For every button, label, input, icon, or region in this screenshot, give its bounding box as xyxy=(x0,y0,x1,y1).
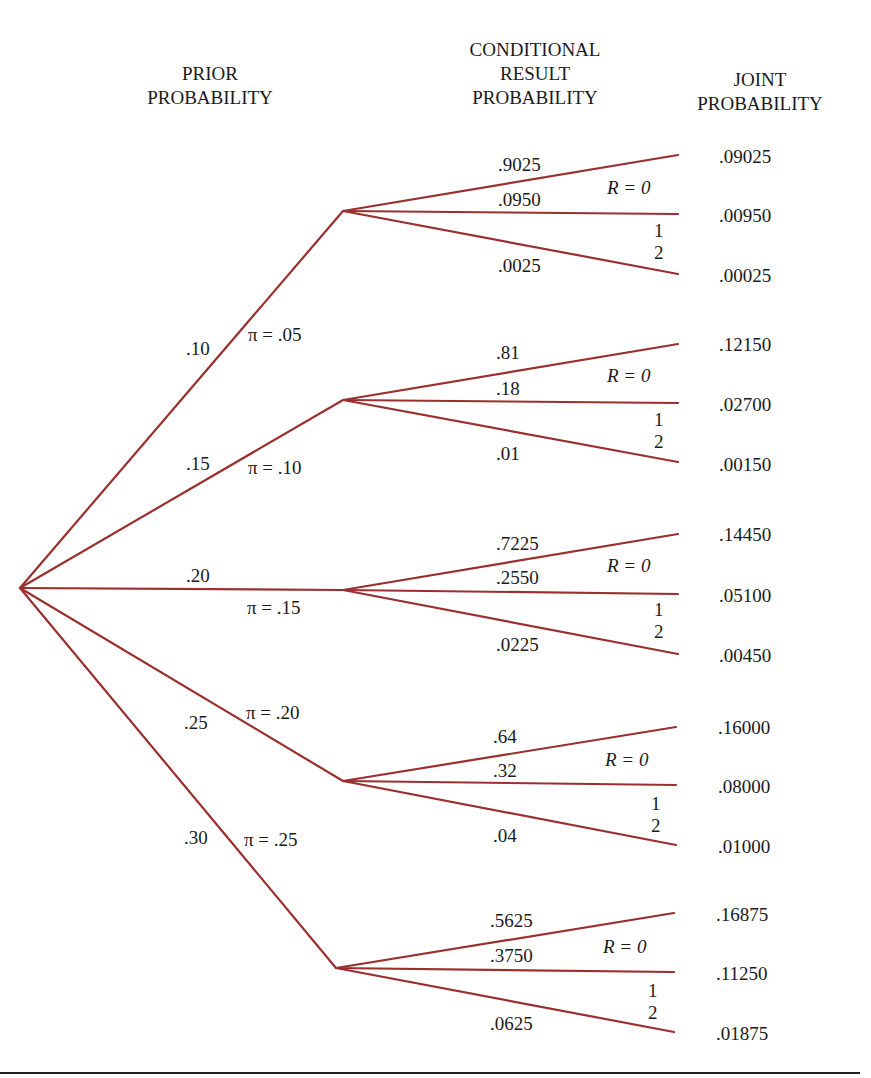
pi-label-4: π = .20 xyxy=(246,702,300,724)
prior-prob-3: .20 xyxy=(186,565,210,587)
joint-prob: .00950 xyxy=(719,205,771,227)
conditional-prob: .2550 xyxy=(496,567,539,589)
joint-prob: .02700 xyxy=(719,394,771,416)
joint-prob: .12150 xyxy=(719,334,771,356)
branch-prior-2 xyxy=(20,400,343,588)
result-label-r2: 2 xyxy=(648,1002,658,1024)
conditional-prob: .01 xyxy=(496,443,520,465)
conditional-prob: .32 xyxy=(493,760,517,782)
conditional-prob: .64 xyxy=(493,726,517,748)
result-label-r1: 1 xyxy=(651,793,661,815)
joint-prob: .09025 xyxy=(719,146,771,168)
joint-prob: .01000 xyxy=(718,836,770,858)
pi-label-1: π = .05 xyxy=(248,324,302,346)
conditional-prob: .0225 xyxy=(496,634,539,656)
result-label-r1: 1 xyxy=(654,409,664,431)
result-label-r1: 1 xyxy=(648,980,658,1002)
pi-label-2: π = .10 xyxy=(248,457,302,479)
joint-prob: .14450 xyxy=(719,524,771,546)
conditional-prob: .0025 xyxy=(498,255,541,277)
joint-prob: .00450 xyxy=(719,645,771,667)
conditional-prob: .0625 xyxy=(490,1013,533,1035)
joint-prob: .00150 xyxy=(719,454,771,476)
prior-prob-4: .25 xyxy=(184,712,208,734)
result-label-r2: 2 xyxy=(654,242,664,264)
prior-prob-1: .10 xyxy=(186,338,210,360)
result-label-r2: 2 xyxy=(651,815,661,837)
conditional-prob: .3750 xyxy=(490,945,533,967)
conditional-prob: .7225 xyxy=(496,533,539,555)
joint-prob: .11250 xyxy=(716,963,768,985)
joint-prob: .00025 xyxy=(719,265,771,287)
joint-prob: .16000 xyxy=(718,717,770,739)
conditional-prob: .81 xyxy=(496,342,520,364)
pi-label-3: π = .15 xyxy=(247,597,301,619)
conditional-prob: .0950 xyxy=(498,189,541,211)
result-label-r1: 1 xyxy=(654,599,664,621)
branch-prior-3 xyxy=(20,588,343,590)
conditional-prob: .04 xyxy=(493,825,517,847)
result-label-r0: R = 0 xyxy=(607,365,650,387)
result-label-r0: R = 0 xyxy=(607,555,650,577)
conditional-prob: .9025 xyxy=(498,154,541,176)
result-label-r0: R = 0 xyxy=(605,749,648,771)
branch-prior-5 xyxy=(20,588,336,968)
branch-prior-1 xyxy=(20,211,343,588)
result-label-r0: R = 0 xyxy=(603,936,646,958)
joint-prob: .01875 xyxy=(716,1023,768,1045)
joint-prob: .05100 xyxy=(719,585,771,607)
conditional-prob: .5625 xyxy=(490,910,533,932)
prior-prob-2: .15 xyxy=(186,453,210,475)
pi-label-5: π = .25 xyxy=(244,829,298,851)
conditional-prob: .18 xyxy=(496,378,520,400)
joint-prob: .08000 xyxy=(718,776,770,798)
result-label-r1: 1 xyxy=(654,220,664,242)
result-label-r2: 2 xyxy=(654,621,664,643)
bottom-rule xyxy=(0,1072,860,1074)
prior-prob-5: .30 xyxy=(184,827,208,849)
joint-prob: .16875 xyxy=(716,904,768,926)
result-label-r0: R = 0 xyxy=(607,177,650,199)
result-label-r2: 2 xyxy=(654,431,664,453)
